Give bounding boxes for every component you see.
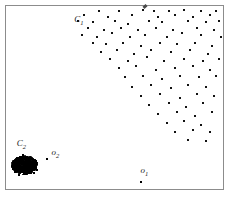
scatter-plot-figure: C1 C2 o2 o1 bbox=[0, 0, 231, 197]
outlier-label-o2: o2 bbox=[52, 148, 60, 159]
cluster-label-c2: C2 bbox=[17, 139, 26, 150]
plot-frame bbox=[5, 5, 224, 190]
cluster-label-c1: C1 bbox=[74, 15, 83, 26]
outlier-label-o1: o1 bbox=[141, 166, 149, 177]
